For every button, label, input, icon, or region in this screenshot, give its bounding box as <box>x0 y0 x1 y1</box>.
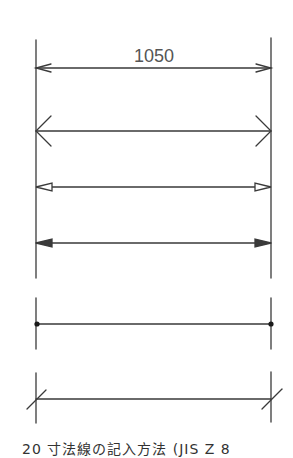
dimension-hollow-triangle-arrow <box>36 183 271 191</box>
dot-right-icon <box>268 321 273 326</box>
dimension-dot-terminator <box>34 298 273 349</box>
dot-left-icon <box>34 321 39 326</box>
arrowhead-right-icon <box>255 239 271 247</box>
dimension-filled-triangle-arrow <box>36 239 271 247</box>
arrowhead-right-icon <box>255 183 271 191</box>
arrowhead-left-icon <box>36 183 52 191</box>
arrowhead-left-icon <box>36 239 52 247</box>
dimension-value-label: 1050 <box>134 46 174 66</box>
figure-caption: 20 寸法線の記入方法 (JIS Z 8 <box>22 438 231 458</box>
dimension-open-90-arrow <box>36 116 271 146</box>
dimension-oblique-stroke-terminator <box>27 372 282 423</box>
